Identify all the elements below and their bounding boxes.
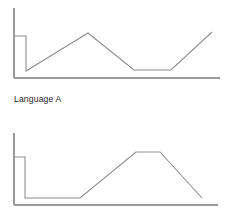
bottom-chart-data-line (14, 152, 202, 198)
caption-language-a: Language A (14, 94, 61, 105)
figure-root: Language A (0, 0, 236, 220)
top-chart-svg (0, 0, 236, 92)
chart-panel-bottom (0, 125, 236, 220)
bottom-chart-svg (0, 125, 236, 220)
chart-panel-top (0, 0, 236, 92)
top-chart-data-line (14, 32, 212, 71)
